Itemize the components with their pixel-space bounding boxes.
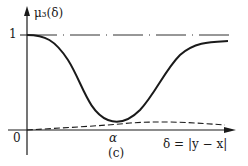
solid-curve <box>27 35 228 122</box>
dashed-curve <box>27 122 225 130</box>
alpha-label: α <box>109 132 117 144</box>
y-axis-arrow-icon <box>24 6 30 16</box>
figure-caption: (c) <box>108 147 124 159</box>
membership-function-chart: μ₃(δ) 1 0 α (c) δ = |y − x| <box>0 0 248 166</box>
x-axis-label: δ = |y − x| <box>163 138 227 150</box>
y-tick-label-one: 1 <box>9 28 17 40</box>
y-axis-label: μ₃(δ) <box>34 7 63 19</box>
origin-label: 0 <box>13 132 21 144</box>
x-axis-arrow-icon <box>224 127 236 133</box>
